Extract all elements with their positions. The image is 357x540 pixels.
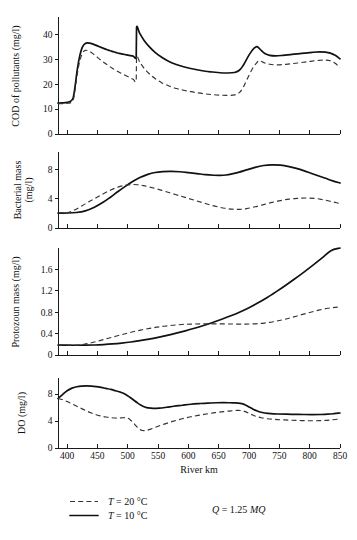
xtick-label-8: 800 xyxy=(303,451,318,461)
xtick-label-2: 500 xyxy=(121,451,136,461)
curve-do-T10 xyxy=(58,386,340,415)
xtick-label-9: 850 xyxy=(333,451,348,461)
xtick-label-0: 400 xyxy=(60,451,75,461)
panel4-y-axis-title: DO (mg/l) xyxy=(16,392,28,434)
xtick-label-1: 450 xyxy=(90,451,105,461)
ytick-label-cod-0: 0 xyxy=(48,129,53,139)
ytick-label-cod-1: 10 xyxy=(43,104,53,114)
ytick-label-bacterial-1: 4 xyxy=(48,194,53,204)
xtick-label-3: 550 xyxy=(151,451,166,461)
ytick-label-protozoan-4: 1.6 xyxy=(41,265,53,275)
ytick-label-do-1: 4 xyxy=(48,416,53,426)
xtick-label-6: 700 xyxy=(242,451,257,461)
panel-bacterial: 048 xyxy=(48,152,340,234)
ytick-label-do-0: 0 xyxy=(48,443,53,453)
axes-cod xyxy=(58,17,340,135)
legend-discharge-annotation: Q = 1.25 MQ xyxy=(212,504,266,515)
xtick-label-4: 600 xyxy=(181,451,196,461)
panel-protozoan: 00.40.81.21.6 xyxy=(41,248,340,361)
axes-bacterial xyxy=(58,152,340,229)
xtick-label-7: 750 xyxy=(272,451,287,461)
curve-bacterial-T20 xyxy=(58,184,340,213)
curve-cod-T10 xyxy=(58,26,340,103)
ytick-label-bacterial-0: 0 xyxy=(48,223,53,233)
ytick-label-protozoan-2: 0.8 xyxy=(41,308,53,318)
ytick-label-bacterial-2: 8 xyxy=(48,165,53,175)
panel-cod: 010203040 xyxy=(43,17,340,140)
curve-bacterial-T10 xyxy=(58,165,340,213)
panel1-y-axis-title: COD of pollutants (mg/l) xyxy=(10,25,22,126)
ytick-label-protozoan-3: 1.2 xyxy=(41,286,53,296)
ytick-label-protozoan-1: 0.4 xyxy=(41,329,53,339)
xtick-label-5: 650 xyxy=(212,451,227,461)
ytick-label-protozoan-0: 0 xyxy=(48,350,53,360)
legend-entry-t20-label: T = 20 °C xyxy=(108,496,148,507)
panel3-y-axis-title: Protozoun mass (mg/l) xyxy=(10,256,22,347)
panel-do: 048 xyxy=(48,378,340,454)
legend-entry-t10-label: T = 10 °C xyxy=(108,510,148,521)
curve-cod-T20 xyxy=(58,50,340,103)
ytick-label-cod-4: 40 xyxy=(43,30,53,40)
curve-protozoan-T10 xyxy=(58,248,340,345)
panel2-y-axis-title-line1: Bacterial mass xyxy=(12,161,23,220)
axes-protozoan xyxy=(58,248,340,356)
ytick-label-cod-2: 20 xyxy=(43,80,53,90)
multi-panel-chart: 01020304004800.40.81.21.6048COD of pollu… xyxy=(0,0,357,540)
ytick-label-do-2: 8 xyxy=(48,389,53,399)
x-axis-title: River km xyxy=(180,464,218,475)
panel2-y-axis-title-line2: (mg/l) xyxy=(23,178,35,203)
ytick-label-cod-3: 30 xyxy=(43,55,53,65)
legend: T = 20 °CT = 10 °CQ = 1.25 MQ xyxy=(70,496,266,521)
